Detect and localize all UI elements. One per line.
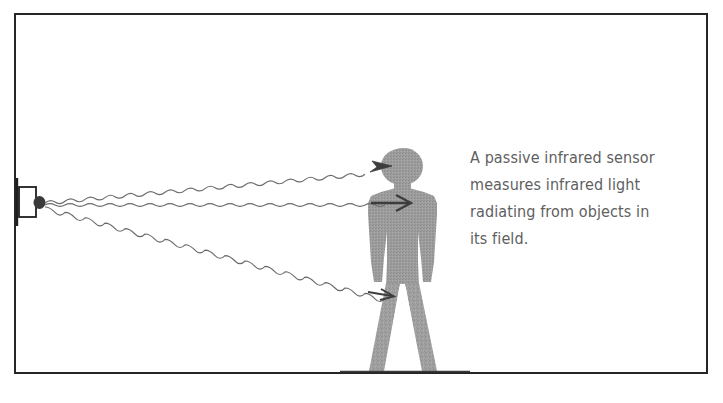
ray-to-leg [45, 207, 385, 301]
sensor-lens-icon [34, 196, 46, 209]
passive-infrared-sensor [17, 178, 46, 226]
caption-text-block: A passive infrared sensor measures infra… [470, 145, 660, 253]
caption-line-2: measures infrared light [470, 172, 647, 199]
caption-line-3: radiating from objects in [470, 199, 647, 226]
caption-line-4: its field. [470, 226, 647, 253]
illustration-stage: A passive infrared sensor measures infra… [0, 0, 723, 403]
ray-to-chest [45, 204, 385, 207]
human-figure-silhouette [368, 148, 437, 371]
ray-to-head [45, 174, 365, 204]
sensor-body [19, 187, 36, 217]
infrared-radiation-waves [45, 174, 385, 302]
caption-line-1: A passive infrared sensor [470, 145, 647, 172]
